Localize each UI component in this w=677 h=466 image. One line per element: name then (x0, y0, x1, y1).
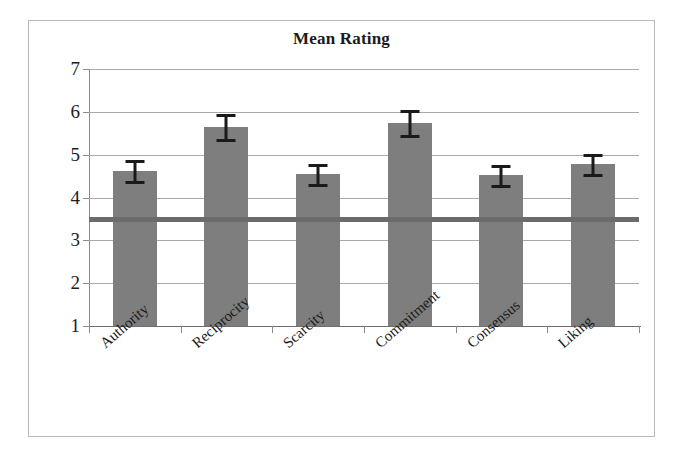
bar (571, 164, 615, 326)
y-axis-tick-label: 3 (71, 229, 81, 251)
y-axis-tick-label: 4 (71, 187, 81, 209)
y-axis-tick-label: 5 (71, 144, 81, 166)
scale-midpoint-reference-line (89, 217, 639, 222)
error-bar-stem (133, 160, 136, 181)
error-bar-stem (225, 114, 228, 139)
bar-slot (272, 69, 364, 326)
x-axis-tick (456, 326, 457, 333)
bar (296, 174, 340, 326)
x-axis-tick (89, 326, 90, 333)
error-bar-cap-lower (309, 184, 328, 187)
x-axis-tick (547, 326, 548, 333)
bar-slot (547, 69, 639, 326)
error-bar-cap-lower (492, 185, 511, 188)
bar (113, 171, 157, 326)
error-bar-cap-lower (400, 135, 419, 138)
x-axis-line (89, 326, 641, 327)
x-axis-tick (639, 326, 640, 333)
error-bar-cap-upper (309, 164, 328, 167)
y-axis-tick-label: 6 (71, 101, 81, 123)
x-axis-tick (181, 326, 182, 333)
chart-title: Mean Rating (29, 29, 654, 49)
error-bar-cap-lower (217, 139, 236, 142)
y-axis-tick-label: 7 (71, 58, 81, 80)
error-bar-cap-upper (492, 165, 511, 168)
bar-slot (89, 69, 181, 326)
bar-slot (456, 69, 548, 326)
figure-frame: Mean Rating 1234567 AuthorityReciprocity… (28, 20, 655, 437)
bar-slot (364, 69, 456, 326)
error-bar-cap-lower (584, 174, 603, 177)
error-bar-cap-upper (217, 114, 236, 117)
y-axis-tick-label: 2 (71, 272, 81, 294)
error-bar-cap-upper (125, 160, 144, 163)
error-bar-cap-upper (584, 154, 603, 157)
bar-slot (181, 69, 273, 326)
x-axis-tick (272, 326, 273, 333)
plot-area: 1234567 (89, 69, 639, 326)
x-axis-tick (364, 326, 365, 333)
error-bar-stem (592, 154, 595, 175)
error-bar-cap-upper (400, 110, 419, 113)
y-axis-tick-label: 1 (71, 315, 81, 337)
error-bar-cap-lower (125, 181, 144, 184)
error-bar-stem (408, 110, 411, 135)
